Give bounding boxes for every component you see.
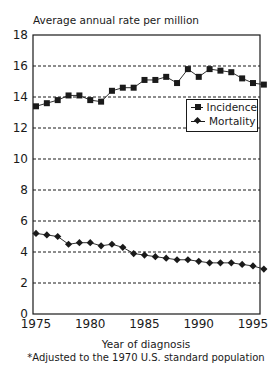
svg-text:2: 2 xyxy=(20,276,28,290)
plot-frame xyxy=(33,35,260,314)
legend-item-incidence: Incidence xyxy=(187,100,257,114)
svg-text:1995: 1995 xyxy=(238,317,269,331)
legend-label-incidence: Incidence xyxy=(207,101,257,113)
svg-text:1980: 1980 xyxy=(75,317,106,331)
x-axis-ticks: 19751980198519901995 xyxy=(21,317,269,331)
line-chart: 024681012141618 19751980198519901995 xyxy=(0,0,276,373)
y-axis-ticks: 024681012141618 xyxy=(13,28,28,321)
svg-text:10: 10 xyxy=(13,152,28,166)
legend-item-mortality: Mortality xyxy=(187,114,257,128)
svg-text:4: 4 xyxy=(20,245,28,259)
legend: Incidence Mortality xyxy=(186,99,258,132)
legend-label-mortality: Mortality xyxy=(209,115,256,127)
svg-text:6: 6 xyxy=(20,214,28,228)
svg-text:18: 18 xyxy=(13,28,28,42)
svg-text:1975: 1975 xyxy=(21,317,52,331)
svg-text:12: 12 xyxy=(13,121,28,135)
svg-text:14: 14 xyxy=(13,90,28,104)
svg-text:16: 16 xyxy=(13,59,28,73)
svg-text:1985: 1985 xyxy=(129,317,160,331)
svg-text:1990: 1990 xyxy=(183,317,214,331)
svg-text:8: 8 xyxy=(20,183,28,197)
diamond-marker-icon xyxy=(191,116,205,126)
x-axis-title: Year of diagnosis xyxy=(0,338,276,350)
footnote: *Adjusted to the 1970 U.S. standard popu… xyxy=(0,352,276,363)
square-marker-icon xyxy=(191,102,203,112)
